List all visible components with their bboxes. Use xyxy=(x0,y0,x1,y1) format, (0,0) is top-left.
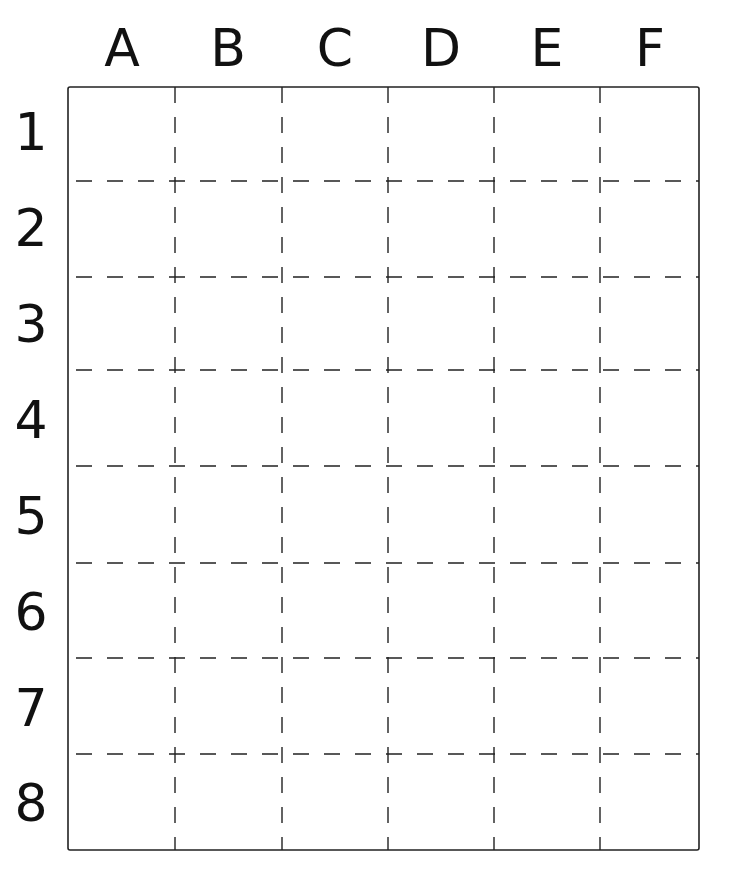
grid-border xyxy=(68,87,699,850)
column-dividers xyxy=(175,87,600,850)
grid-lines xyxy=(0,0,731,880)
row-dividers xyxy=(68,181,699,754)
